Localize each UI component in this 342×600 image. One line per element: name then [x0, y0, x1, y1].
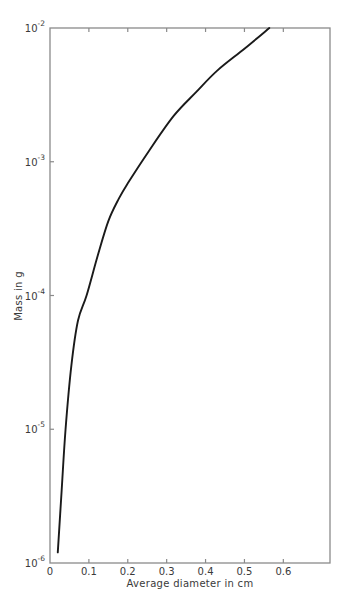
y-tick-label: 10-5 — [25, 420, 45, 435]
x-tick-label: 0.6 — [275, 566, 291, 577]
y-tick-label: 10-6 — [25, 554, 45, 569]
x-axis-title: Average diameter in cm — [127, 578, 254, 589]
x-tick-label: 0.2 — [120, 566, 136, 577]
x-tick-label: 0 — [47, 566, 53, 577]
x-tick-label: 0.5 — [236, 566, 252, 577]
plot-border — [50, 28, 330, 563]
chart-svg: 00.10.20.30.40.50.6 10-610-510-410-310-2… — [0, 0, 342, 600]
mass-curve — [58, 28, 270, 552]
y-tick-label: 10-2 — [25, 19, 45, 34]
x-tick-label: 0.1 — [81, 566, 97, 577]
plot-frame — [50, 28, 330, 563]
y-tick-label: 10-4 — [25, 287, 45, 302]
x-tick-label: 0.4 — [198, 566, 214, 577]
y-axis-title: Mass in g — [13, 271, 24, 321]
data-series — [58, 28, 270, 552]
chart: 00.10.20.30.40.50.6 10-610-510-410-310-2… — [0, 0, 342, 600]
y-tick-label: 10-3 — [25, 153, 45, 168]
x-tick-label: 0.3 — [159, 566, 175, 577]
